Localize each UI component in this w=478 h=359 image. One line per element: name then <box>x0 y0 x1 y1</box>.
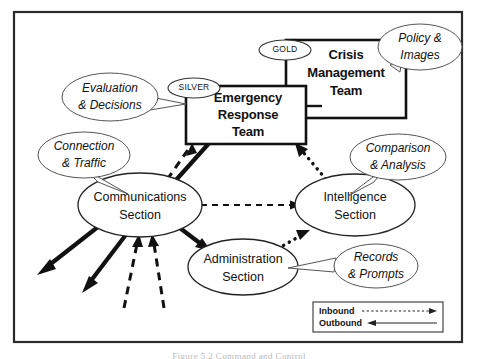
callout-records-prompts-line-1: Records <box>354 250 399 264</box>
ellipse-communications-section[interactable]: Communications Section <box>78 173 202 237</box>
callout-evaluation-decisions: Evaluation & Decisions <box>62 73 186 121</box>
callout-records-prompts-line-2: & Prompts <box>348 267 404 281</box>
callout-comparison-analysis-line-1: Comparison <box>366 141 431 155</box>
legend-item-inbound-label: Inbound <box>319 306 355 316</box>
flow-comms-inbound-1 <box>124 234 143 308</box>
tag-gold: GOLD <box>259 40 311 60</box>
crisis-management-team-line-1: Crisis <box>329 47 364 62</box>
callout-comparison-analysis-line-2: & Analysis <box>370 158 426 172</box>
ellipse-intelligence-section[interactable]: Intelligence Section <box>295 174 415 236</box>
callout-evaluation-decisions-line-2: & Decisions <box>78 98 141 112</box>
administration-section-line-1: Administration <box>203 252 282 266</box>
tag-silver: SILVER <box>168 78 220 98</box>
communications-section-line-1: Communications <box>93 190 186 204</box>
callout-policy-images-line-2: Images <box>400 48 439 62</box>
flow-comms-inbound-2 <box>148 234 164 308</box>
flow-comms-outbound-2 <box>82 232 128 293</box>
callout-connection-traffic-line-2: & Traffic <box>62 156 106 170</box>
legend: Inbound Outbound <box>313 302 443 332</box>
callout-evaluation-decisions-line-1: Evaluation <box>82 81 138 95</box>
crisis-management-team-line-2: Management <box>307 65 385 80</box>
emergency-response-team-line-1: Emergency <box>214 90 283 105</box>
crisis-management-team-line-3: Team <box>330 83 362 98</box>
tag-gold-label: GOLD <box>273 44 298 54</box>
legend-item-outbound-label: Outbound <box>319 318 362 328</box>
diagram-canvas: Crisis Management Team Emergency Respons… <box>0 0 478 359</box>
administration-section-line-2: Section <box>222 270 264 284</box>
callout-policy-images-line-1: Policy & <box>398 31 441 45</box>
communications-section-line-2: Section <box>119 208 161 222</box>
callout-policy-images: Policy & Images <box>378 24 462 72</box>
callout-records-prompts: Records & Prompts <box>288 244 418 288</box>
diagram-root: Crisis Management Team Emergency Respons… <box>0 0 478 359</box>
emergency-response-team-line-3: Team <box>232 124 264 139</box>
flow-comms-to-intel <box>190 201 302 210</box>
tag-silver-label: SILVER <box>179 82 210 92</box>
intelligence-section-line-2: Section <box>334 208 376 222</box>
callout-connection-traffic-line-1: Connection <box>54 139 115 153</box>
ellipse-administration-section[interactable]: Administration Section <box>188 239 298 295</box>
emergency-response-team-line-2: Response <box>218 107 279 122</box>
figure-caption: Figure 5.2 Command and Control <box>0 350 478 359</box>
